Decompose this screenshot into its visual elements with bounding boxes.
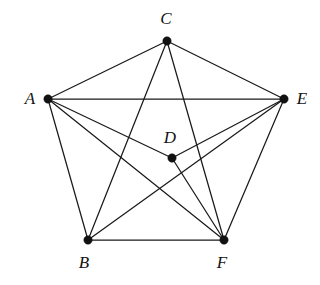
graph-vertex-e [280, 95, 288, 103]
graph-figure: ABCDEF [0, 0, 320, 285]
vertex-label-e: E [296, 89, 308, 108]
graph-edge-de [172, 99, 284, 158]
graph-vertex-f [220, 236, 228, 244]
graph-vertex-d [168, 154, 176, 162]
vertex-label-d: D [163, 128, 177, 147]
vertex-label-c: C [160, 9, 172, 28]
vertex-label-b: B [79, 253, 90, 272]
graph-vertex-c [163, 37, 171, 45]
labels-layer: ABCDEF [24, 9, 308, 272]
graph-edge-ce [167, 41, 284, 99]
graph-edge-ac [48, 41, 167, 99]
graph-vertex-b [84, 236, 92, 244]
graph-edge-ab [48, 99, 88, 240]
graph-edge-df [172, 158, 224, 240]
graph-canvas: ABCDEF [0, 0, 320, 285]
vertex-label-f: F [216, 253, 228, 272]
vertex-label-a: A [24, 89, 36, 108]
graph-vertex-a [44, 95, 52, 103]
